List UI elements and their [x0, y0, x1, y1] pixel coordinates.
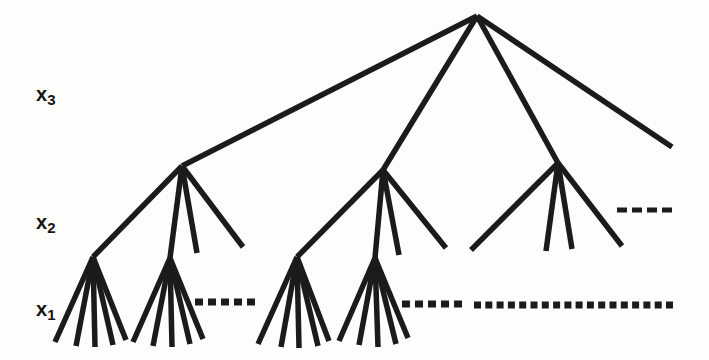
continuation-dot-x1: [415, 301, 423, 308]
continuation-dot-x1: [553, 302, 560, 309]
continuation-dot-x1: [497, 302, 504, 309]
label-x1-subscript: 1: [47, 306, 55, 323]
continuation-dot-x1: [643, 302, 650, 309]
tree-edge: [93, 166, 182, 257]
tree-svg: [0, 0, 709, 360]
level-label-x1: x1: [36, 299, 55, 322]
label-x2-base: x: [36, 211, 47, 233]
continuation-dot-x1: [441, 301, 449, 308]
label-x3-subscript: 3: [47, 91, 55, 108]
continuation-dot-x1: [542, 302, 549, 309]
tree-edge: [477, 16, 558, 163]
continuation-dot-x1: [474, 302, 481, 309]
level-label-x3: x3: [36, 84, 55, 107]
continuation-dot-x1: [564, 302, 571, 309]
continuation-dot-x1: [195, 299, 203, 306]
continuation-dot-x1: [247, 299, 255, 306]
continuation-dot-x1: [666, 302, 673, 309]
continuation-dot-x2: [617, 208, 627, 213]
continuation-dot-x1: [576, 302, 583, 309]
label-x2-subscript: 2: [47, 219, 55, 236]
continuation-dot-x1: [402, 301, 410, 308]
continuation-dot-x1: [598, 302, 605, 309]
label-x3-base: x: [36, 83, 47, 105]
continuation-dot-x1: [454, 301, 462, 308]
continuation-dot-x1: [519, 302, 526, 309]
continuation-dot-x1: [485, 302, 492, 309]
tree-edge: [297, 170, 383, 257]
continuation-dot-x2: [632, 208, 642, 213]
continuation-dot-x1: [508, 302, 515, 309]
continuation-dot-x2: [662, 208, 672, 213]
continuation-dot-x1: [632, 302, 639, 309]
continuation-dot-x1: [587, 302, 594, 309]
tree-edge: [477, 16, 672, 147]
tree-figure: x3 x2 x1: [0, 0, 709, 360]
continuation-dot-x1: [610, 302, 617, 309]
continuation-dot-x1: [221, 299, 229, 306]
continuation-dot-x1: [531, 302, 538, 309]
continuation-dot-x1: [428, 301, 436, 308]
label-x1-base: x: [36, 298, 47, 320]
tree-edge: [471, 163, 558, 250]
tree-edge: [375, 170, 383, 258]
continuation-dot-x1: [234, 299, 242, 306]
level-label-x2: x2: [36, 212, 55, 235]
continuation-dot-x1: [655, 302, 662, 309]
continuation-dot-x1: [621, 302, 628, 309]
continuation-dot-x2: [647, 208, 657, 213]
continuation-dot-x1: [208, 299, 216, 306]
